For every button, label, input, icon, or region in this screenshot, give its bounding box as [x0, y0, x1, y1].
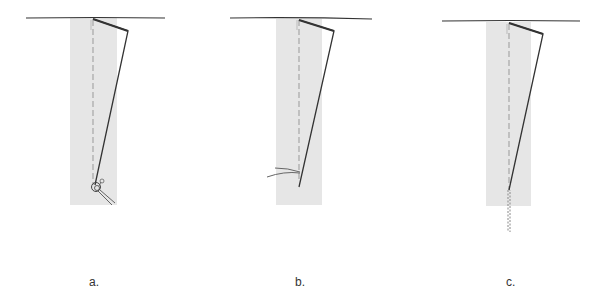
panel-b: b.	[200, 0, 400, 299]
dart-diagram-b	[200, 0, 400, 299]
panel-label-a: a.	[89, 275, 99, 289]
top-edge-line	[442, 21, 580, 22]
top-edge-line	[26, 18, 165, 19]
top-edge-line	[230, 18, 372, 19]
dart-diagram-a	[0, 0, 200, 299]
dart-diagram-c	[400, 0, 600, 299]
panel-c: c.	[400, 0, 600, 299]
panel-label-c: c.	[506, 275, 515, 289]
panel-a: a.	[0, 0, 200, 299]
panel-label-b: b.	[295, 275, 305, 289]
